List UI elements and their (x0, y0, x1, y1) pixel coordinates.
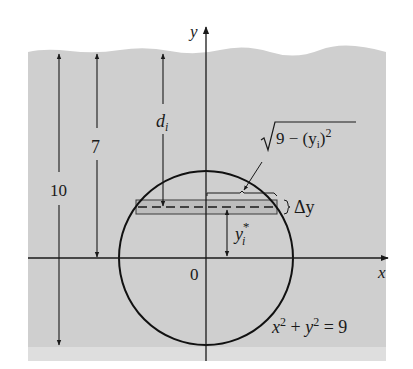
water-region (28, 45, 386, 347)
diagram-canvas: y x 0 10 7 di yi* 9 − (yi)2 (0, 0, 413, 369)
svg-text:9 − (yi)2: 9 − (yi)2 (276, 126, 331, 150)
delta-y-label: Δy (294, 197, 315, 217)
origin-label: 0 (190, 265, 199, 284)
y-axis-label: y (188, 22, 198, 41)
depth-10-label: 10 (50, 181, 67, 200)
depth-7-label: 7 (91, 137, 100, 157)
water-bottom-band (28, 347, 386, 361)
hydrostatic-force-diagram: y x 0 10 7 di yi* 9 − (yi)2 (0, 0, 413, 369)
x-axis-label: x (377, 263, 386, 282)
